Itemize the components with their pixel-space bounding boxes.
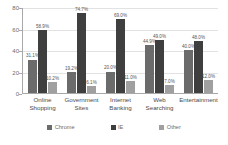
- bar-ie[interactable]: [155, 40, 164, 93]
- y-axis-tick-label: 60: [12, 27, 19, 33]
- legend-label: IE: [118, 124, 123, 130]
- bar-other[interactable]: [87, 86, 96, 93]
- bar-wrapper: 49.0%: [155, 8, 164, 93]
- legend-item-ie[interactable]: IE: [111, 124, 124, 130]
- bar-value-label: 10.2%: [46, 77, 59, 82]
- x-axis-category-label: Entertainment: [179, 96, 218, 112]
- bar-value-label: 7.0%: [164, 80, 174, 85]
- plot-area: 020406080 31.1%58.9%10.2%19.2%74.7%6.1%2…: [22, 8, 218, 94]
- bar-group: 20.0%69.0%11.0%: [101, 8, 140, 93]
- y-axis-tick-mark: [19, 94, 22, 95]
- bar-chart: 020406080 31.1%58.9%10.2%19.2%74.7%6.1%2…: [0, 0, 228, 145]
- legend-item-other[interactable]: Other: [159, 124, 181, 130]
- x-axis-category-label: Internet Banking: [101, 96, 140, 112]
- bar-ie[interactable]: [38, 30, 47, 93]
- legend-label: Other: [167, 124, 181, 130]
- bar-ie[interactable]: [194, 41, 203, 93]
- bar-wrapper: 11.0%: [126, 8, 135, 93]
- bar-group: 40.0%48.0%12.0%: [179, 8, 218, 93]
- bar-wrapper: 20.0%: [106, 8, 115, 93]
- y-axis-tick-label: 40: [12, 48, 19, 54]
- bar-ie[interactable]: [77, 13, 86, 93]
- legend-label: Chrome: [55, 124, 75, 130]
- x-axis-category-label: Government Sites: [62, 96, 101, 112]
- y-axis-tick-mark: [19, 51, 22, 52]
- y-axis-tick-mark: [19, 30, 22, 31]
- bar-chrome[interactable]: [184, 50, 193, 93]
- y-axis-tick-label: 80: [12, 5, 19, 11]
- x-axis-category-labels: Online ShoppingGovernment SitesInternet …: [23, 96, 218, 112]
- bar-other[interactable]: [204, 80, 213, 93]
- y-axis-tick-label: 20: [12, 70, 19, 76]
- legend-swatch-icon: [47, 125, 52, 130]
- bar-groups: 31.1%58.9%10.2%19.2%74.7%6.1%20.0%69.0%1…: [23, 8, 218, 93]
- bar-chrome[interactable]: [145, 45, 154, 93]
- bar-other[interactable]: [48, 82, 57, 93]
- legend-item-chrome[interactable]: Chrome: [47, 124, 74, 130]
- bar-wrapper: 10.2%: [48, 8, 57, 93]
- bar-wrapper: 6.1%: [87, 8, 96, 93]
- x-axis-line: [22, 93, 218, 94]
- legend-swatch-icon: [111, 125, 116, 130]
- legend: ChromeIEOther: [0, 124, 228, 130]
- bar-value-label: 11.0%: [124, 76, 137, 81]
- bar-value-label: 12.0%: [202, 75, 215, 80]
- bar-wrapper: 7.0%: [165, 8, 174, 93]
- bar-group: 31.1%58.9%10.2%: [23, 8, 62, 93]
- bar-value-label: 6.1%: [86, 81, 96, 86]
- x-axis-category-label: Online Shopping: [23, 96, 62, 112]
- bar-wrapper: 44.9%: [145, 8, 154, 93]
- bar-other[interactable]: [165, 85, 174, 93]
- bar-group: 19.2%74.7%6.1%: [62, 8, 101, 93]
- bar-other[interactable]: [126, 81, 135, 93]
- bar-wrapper: 19.2%: [67, 8, 76, 93]
- bar-chrome[interactable]: [67, 72, 76, 93]
- bar-ie[interactable]: [116, 19, 125, 93]
- bar-group: 44.9%49.0%7.0%: [140, 8, 179, 93]
- x-axis-category-label: Web Searching: [140, 96, 179, 112]
- y-axis-tick-mark: [19, 73, 22, 74]
- bar-chrome[interactable]: [106, 72, 115, 94]
- bar-wrapper: 48.0%: [194, 8, 203, 93]
- bar-chrome[interactable]: [28, 60, 37, 93]
- y-axis-tick-mark: [19, 8, 22, 9]
- bar-wrapper: 74.7%: [77, 8, 86, 93]
- bar-wrapper: 12.0%: [204, 8, 213, 93]
- legend-swatch-icon: [159, 125, 164, 130]
- bar-wrapper: 31.1%: [28, 8, 37, 93]
- bar-wrapper: 40.0%: [184, 8, 193, 93]
